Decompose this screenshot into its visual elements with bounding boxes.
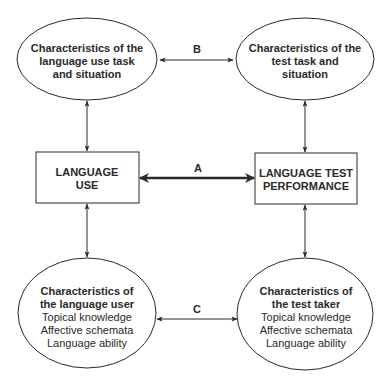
node-title-line: the language user <box>40 298 135 310</box>
node-text-line: LANGUAGE <box>56 166 119 178</box>
node-text-line: and situation <box>53 68 122 80</box>
node-item: Affective schemata <box>41 324 135 336</box>
node-language-user: Characteristics of the language user Top… <box>18 258 156 368</box>
node-language-use-task: Characteristics of the language use task… <box>17 18 157 100</box>
node-test-taker: Characteristics of the test taker Topica… <box>237 258 373 370</box>
node-title-line: Characteristics of <box>41 285 134 297</box>
node-text-line: language use task <box>39 55 135 67</box>
diagram-canvas: Characteristics of the language use task… <box>0 0 391 385</box>
node-item: Topical knowledge <box>261 311 351 323</box>
edge-b: B <box>160 43 233 60</box>
node-test-task: Characteristics of the test task and sit… <box>236 18 374 100</box>
node-text-line: Characteristics of the <box>31 42 143 54</box>
edge-label-a: A <box>194 162 202 174</box>
node-item: Language ability <box>266 337 347 349</box>
node-text-line: Characteristics of the <box>249 42 361 54</box>
node-title-line: Characteristics of <box>260 285 353 297</box>
node-language-use: LANGUAGE USE <box>36 152 139 203</box>
node-text-line: PERFORMANCE <box>263 180 349 192</box>
node-text-line: LANGUAGE TEST <box>259 167 353 179</box>
node-item: Language ability <box>47 337 128 349</box>
edge-label-b: B <box>193 43 201 55</box>
node-text-line: situation <box>282 68 328 80</box>
node-item: Affective schemata <box>260 324 354 336</box>
node-title-line: the test taker <box>272 298 341 310</box>
node-text-line: USE <box>76 179 99 191</box>
edge-c: C <box>157 303 237 319</box>
node-item: Topical knowledge <box>42 311 132 323</box>
node-test-performance: LANGUAGE TEST PERFORMANCE <box>255 153 357 204</box>
node-text-line: test task and <box>271 55 338 67</box>
edge-a: A <box>140 162 254 178</box>
edge-label-c: C <box>193 303 201 315</box>
